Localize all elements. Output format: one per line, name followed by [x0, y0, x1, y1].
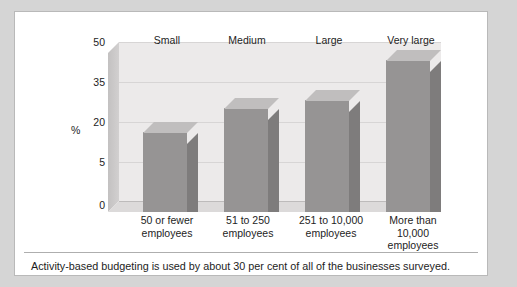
category-line-1: 50 or fewer — [129, 214, 205, 227]
y-tick-1: 35 — [71, 77, 105, 88]
y-axis-label: % — [71, 124, 80, 136]
figure-card: 50 35 20 5 0 % — [14, 11, 488, 276]
plot-left-wall — [108, 42, 119, 212]
series-label-very-large: Very large — [375, 34, 447, 46]
category-line-2: employees — [129, 227, 205, 240]
category-line-1: More than — [373, 214, 453, 227]
screenshot-root: 50 35 20 5 0 % — [0, 0, 517, 287]
bar-front-face — [386, 60, 430, 212]
category-line-3: employees — [373, 239, 453, 252]
caption-divider — [24, 252, 478, 253]
series-label-large: Large — [299, 34, 359, 46]
category-line-1: 51 to 250 — [211, 214, 285, 227]
bar-side-face — [349, 101, 360, 212]
category-line-1: 251 to 10,000 — [287, 214, 375, 227]
category-line-2: 10,000 — [373, 227, 453, 240]
category-label-medium: 51 to 250 employees — [211, 214, 285, 239]
category-line-2: employees — [211, 227, 285, 240]
figure-caption: Activity-based budgeting is used by abou… — [31, 260, 473, 273]
bar-side-face — [187, 133, 198, 212]
bar-front-face — [143, 132, 187, 212]
series-label-medium: Medium — [215, 34, 279, 46]
category-label-small: 50 or fewer employees — [129, 214, 205, 239]
y-tick-4: 0 — [71, 200, 105, 211]
bar-side-face — [430, 61, 441, 212]
category-label-very-large: More than 10,000 employees — [373, 214, 453, 252]
bar-front-face — [305, 100, 349, 212]
category-label-large: 251 to 10,000 employees — [287, 214, 375, 239]
bar-front-face — [224, 108, 268, 212]
y-tick-0: 50 — [71, 37, 105, 48]
y-tick-3: 5 — [71, 157, 105, 168]
series-label-small: Small — [137, 34, 197, 46]
bar-side-face — [268, 109, 279, 212]
category-line-2: employees — [287, 227, 375, 240]
bar-chart: 50 35 20 5 0 % — [15, 12, 487, 244]
